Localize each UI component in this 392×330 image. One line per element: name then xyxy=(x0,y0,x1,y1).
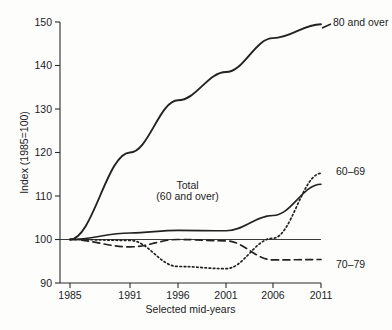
annotation-total-line-2: (60 and over) xyxy=(156,190,218,202)
series-label-leader xyxy=(322,24,331,28)
x-tick-label: 2011 xyxy=(310,289,333,301)
x-axis-title: Selected mid-years xyxy=(146,303,236,315)
series-label-60-69: 60–69 xyxy=(336,165,365,177)
y-axis: 90100110120130140150 xyxy=(34,16,60,289)
series-label-80-and-over: 80 and over xyxy=(333,16,389,28)
chart-annotations: Total(60 and over) xyxy=(156,179,218,202)
y-tick-label: 90 xyxy=(40,277,52,289)
y-tick-label: 120 xyxy=(34,146,52,158)
y-tick-label: 150 xyxy=(34,16,52,28)
chart-container: 90100110120130140150 1985199119962001200… xyxy=(0,0,392,330)
line-chart: 90100110120130140150 1985199119962001200… xyxy=(0,0,392,330)
x-tick-label: 2006 xyxy=(261,289,285,301)
x-tick-label: 2001 xyxy=(214,289,238,301)
series-line-80-and-over xyxy=(70,24,321,239)
series-labels: 80 and over60–6970–79 xyxy=(322,16,389,270)
series-line-70-79 xyxy=(70,240,321,260)
y-tick-label: 140 xyxy=(34,59,52,71)
x-tick-label: 1985 xyxy=(58,289,82,301)
series-group xyxy=(70,24,321,268)
y-tick-label: 110 xyxy=(35,190,52,202)
y-tick-label: 130 xyxy=(34,103,52,115)
series-label-70-79: 70–79 xyxy=(336,258,365,270)
x-tick-label: 1996 xyxy=(166,289,190,301)
y-tick-label: 100 xyxy=(34,233,52,245)
y-axis-title: Index (1985=100) xyxy=(18,111,30,194)
x-tick-label: 1991 xyxy=(118,289,142,301)
x-axis: 198519911996200120062011 xyxy=(58,283,332,301)
